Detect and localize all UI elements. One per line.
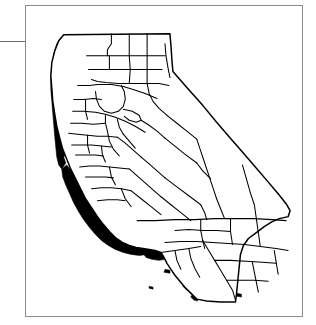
- county-line-n59: [274, 250, 278, 274]
- map-canvas: [26, 6, 302, 316]
- county-line-n58: [252, 262, 258, 292]
- island-santa-rosa: [164, 269, 170, 273]
- island-san-nicolas: [149, 286, 153, 289]
- figure-root: [0, 0, 316, 325]
- left-margin-rule: [0, 41, 27, 42]
- california-county-map-svg: [26, 6, 302, 316]
- map-frame-border: [25, 5, 303, 317]
